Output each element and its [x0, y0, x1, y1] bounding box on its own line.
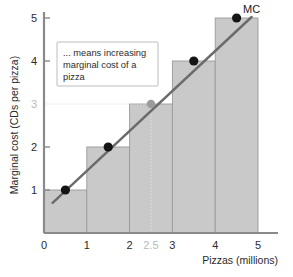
bar-0-1	[44, 190, 87, 233]
x-axis-title: Pizzas (millions)	[202, 254, 278, 266]
y-tick-label-1: 1	[31, 184, 37, 196]
x-tick-label-4: 4	[212, 239, 218, 251]
x-tick-label-2: 2	[127, 239, 133, 251]
x-tick-label-2-5: 2.5	[143, 239, 158, 251]
series-label-mc: MC	[243, 3, 260, 15]
x-tick-label-5: 5	[255, 239, 261, 251]
x-tick-label-1: 1	[84, 239, 90, 251]
annotation-line-2: marginal cost of a	[63, 60, 137, 70]
annotation-line-1: ... means increasing	[63, 48, 146, 58]
y-tick-label-4: 4	[31, 55, 37, 67]
bar-4-5	[215, 18, 258, 233]
data-point-0	[61, 185, 70, 194]
y-axis-title: Marginal cost (CDs per pizza)	[8, 56, 20, 194]
marginal-cost-chart: MC 1 2 3 4 5 0 1 2 2.5 3 4 5 Marginal co…	[0, 0, 293, 277]
data-point-3	[189, 56, 198, 65]
x-axis-ticks: 0 1 2 2.5 3 4 5	[41, 239, 261, 251]
annotation-line-3: pizza	[63, 72, 86, 82]
data-point-2	[147, 100, 155, 108]
y-tick-label-3: 3	[31, 98, 37, 110]
y-tick-label-2: 2	[31, 141, 37, 153]
data-point-4	[232, 13, 241, 22]
x-tick-label-3: 3	[169, 239, 175, 251]
chart-canvas: MC 1 2 3 4 5 0 1 2 2.5 3 4 5 Marginal co…	[0, 0, 293, 277]
x-tick-label-0: 0	[41, 239, 47, 251]
y-axis-ticks: 1 2 3 4 5	[31, 12, 50, 196]
annotation-callout: ... means increasing marginal cost of a …	[57, 42, 158, 86]
bar-1-2	[87, 147, 130, 233]
y-tick-label-5: 5	[31, 12, 37, 24]
data-point-1	[104, 142, 113, 151]
bar-3-4	[172, 61, 215, 233]
